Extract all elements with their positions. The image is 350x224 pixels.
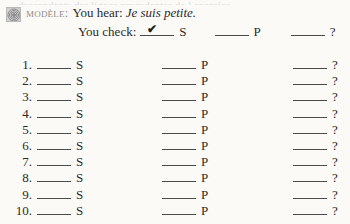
answer-option-s[interactable]: S [37, 170, 83, 186]
model-option-q: ? [291, 24, 336, 40]
answer-blank-q[interactable] [293, 106, 327, 118]
answer-blank-s[interactable] [37, 170, 71, 182]
answer-key-q: ? [332, 154, 338, 170]
answer-key-q: ? [332, 170, 338, 186]
answer-option-s[interactable]: S [37, 138, 83, 154]
you-hear-label: You hear: [72, 5, 122, 21]
answer-key-q: ? [332, 73, 338, 89]
answer-key-p: P [201, 73, 208, 89]
audio-speaker-icon [6, 7, 21, 22]
answer-key-q: ? [332, 122, 338, 138]
answer-key-s: S [76, 154, 83, 170]
exercise-rows: 1.SP?2.SP?3.SP?4.SP?5.SP?6.SP?7.SP?8.SP?… [0, 57, 350, 219]
answer-blank-q[interactable] [293, 154, 327, 166]
answer-option-s[interactable]: S [37, 57, 83, 73]
answer-key-p: P [201, 154, 208, 170]
row-number: 4. [8, 106, 32, 122]
answer-blank-s[interactable] [37, 122, 71, 134]
answer-option-s[interactable]: S [37, 187, 83, 203]
answer-blank-p[interactable] [162, 73, 196, 85]
modele-label: Modèle: [26, 5, 68, 21]
answer-option-s[interactable]: S [37, 106, 83, 122]
modele-block: Modèle: You hear: Je suis petite. [6, 5, 350, 22]
answer-blank-q[interactable] [293, 187, 327, 199]
answer-key-s: S [76, 73, 83, 89]
answer-option-p[interactable]: P [162, 122, 208, 138]
answer-key-p: P [201, 106, 208, 122]
answer-option-p[interactable]: P [162, 170, 208, 186]
answer-key-q: ? [332, 138, 338, 154]
answer-option-p[interactable]: P [162, 57, 208, 73]
answer-blank-p[interactable] [162, 138, 196, 150]
answer-key-s: S [76, 170, 83, 186]
answer-blank-s[interactable] [37, 106, 71, 118]
answer-blank-q[interactable] [293, 170, 327, 182]
answer-blank-p[interactable] [162, 122, 196, 134]
model-key-q: ? [330, 24, 336, 40]
row-number: 8. [8, 170, 32, 186]
exercise-row: 9.SP? [0, 187, 350, 203]
answer-option-p[interactable]: P [162, 73, 208, 89]
answer-option-s[interactable]: S [37, 154, 83, 170]
answer-option-p[interactable]: P [162, 138, 208, 154]
answer-option-q[interactable]: ? [293, 187, 338, 203]
answer-option-q[interactable]: ? [293, 170, 338, 186]
answer-option-q[interactable]: ? [293, 106, 338, 122]
answer-option-p[interactable]: P [162, 154, 208, 170]
answer-option-s[interactable]: S [37, 203, 83, 219]
answer-blank-q[interactable] [293, 122, 327, 134]
answer-blank-p[interactable] [162, 203, 196, 215]
answer-option-s[interactable]: S [37, 122, 83, 138]
answer-option-q[interactable]: ? [293, 73, 338, 89]
answer-blank-p[interactable] [162, 187, 196, 199]
answer-key-p: P [201, 89, 208, 105]
answer-option-s[interactable]: S [37, 89, 83, 105]
model-blank-p [215, 24, 249, 36]
answer-blank-q[interactable] [293, 138, 327, 150]
answer-blank-s[interactable] [37, 203, 71, 215]
model-answer-line: You check: ✔ S P ? [78, 24, 350, 40]
row-number: 1. [8, 57, 32, 73]
answer-blank-s[interactable] [37, 89, 71, 101]
answer-option-q[interactable]: ? [293, 122, 338, 138]
answer-blank-s[interactable] [37, 73, 71, 85]
answer-option-q[interactable]: ? [293, 154, 338, 170]
row-number: 2. [8, 73, 32, 89]
answer-key-s: S [76, 122, 83, 138]
exercise-row: 4.SP? [0, 106, 350, 122]
answer-blank-s[interactable] [37, 154, 71, 166]
answer-blank-p[interactable] [162, 89, 196, 101]
answer-key-p: P [201, 187, 208, 203]
answer-option-p[interactable]: P [162, 106, 208, 122]
exercise-row: 6.SP? [0, 138, 350, 154]
answer-blank-p[interactable] [162, 154, 196, 166]
exercise-row: 10.SP? [0, 203, 350, 219]
speaker-center-dot [12, 13, 16, 17]
answer-blank-q[interactable] [293, 89, 327, 101]
answer-option-q[interactable]: ? [293, 138, 338, 154]
answer-key-p: P [201, 170, 208, 186]
answer-key-q: ? [332, 187, 338, 203]
exercise-row: 3.SP? [0, 89, 350, 105]
answer-option-p[interactable]: P [162, 187, 208, 203]
answer-option-q[interactable]: ? [293, 203, 338, 219]
answer-option-p[interactable]: P [162, 89, 208, 105]
answer-blank-q[interactable] [293, 73, 327, 85]
answer-key-s: S [76, 89, 83, 105]
answer-blank-q[interactable] [293, 203, 327, 215]
answer-key-p: P [201, 138, 208, 154]
exercise-row: 7.SP? [0, 154, 350, 170]
answer-option-p[interactable]: P [162, 203, 208, 219]
answer-blank-s[interactable] [37, 187, 71, 199]
answer-blank-p[interactable] [162, 57, 196, 69]
answer-option-q[interactable]: ? [293, 57, 338, 73]
answer-option-s[interactable]: S [37, 73, 83, 89]
model-blank-q [291, 24, 325, 36]
answer-blank-q[interactable] [293, 57, 327, 69]
answer-blank-s[interactable] [37, 138, 71, 150]
answer-blank-p[interactable] [162, 170, 196, 182]
answer-blank-p[interactable] [162, 106, 196, 118]
answer-key-q: ? [332, 203, 338, 219]
answer-blank-s[interactable] [37, 57, 71, 69]
answer-option-q[interactable]: ? [293, 89, 338, 105]
